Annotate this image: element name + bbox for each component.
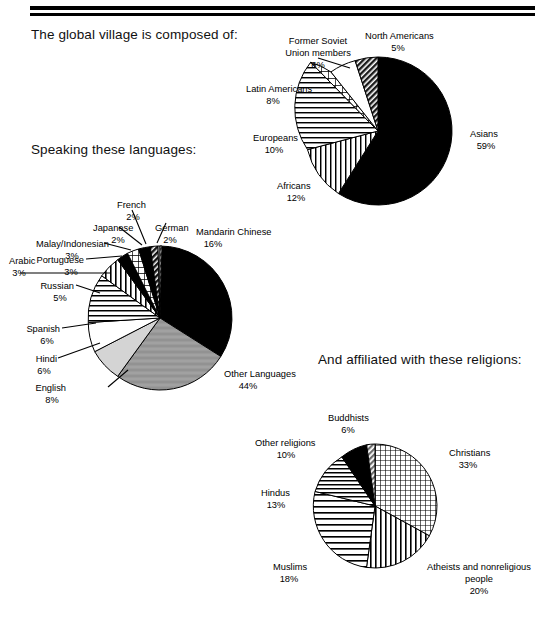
value-hindus: 13% <box>267 500 286 510</box>
value-hindi: 6% <box>37 366 50 376</box>
value-spanish: 6% <box>40 336 53 346</box>
value-christians: 33% <box>459 460 478 470</box>
value-former-soviet: 6% <box>311 60 324 70</box>
value-french: 2% <box>126 212 139 222</box>
label-other-religions: Other religions <box>255 438 316 448</box>
label-buddhists: Buddhists <box>328 413 369 423</box>
value-muslims: 18% <box>280 574 299 584</box>
top-double-rule <box>30 6 535 16</box>
value-german: 2% <box>163 235 176 245</box>
label-latin-americans: Latin Americans <box>246 84 312 94</box>
label-hindi: Hindi <box>36 354 57 364</box>
label-europeans: Europeans <box>253 133 298 143</box>
value-portuguese: 3% <box>64 267 77 277</box>
value-other-religions: 10% <box>277 450 296 460</box>
value-buddhists: 6% <box>341 425 354 435</box>
heading-languages: Speaking these languages: <box>31 142 196 157</box>
value-mandarin-chinese: 16% <box>204 239 223 249</box>
label-spanish: Spanish <box>26 324 60 334</box>
label-other-languages: Other Languages <box>224 369 296 379</box>
label-japanese: Japanese <box>93 223 133 233</box>
label-english: English <box>36 383 67 393</box>
heading-religions: And affiliated with these religions: <box>318 352 522 367</box>
label-north-americans: North Americans <box>365 31 434 41</box>
leader-line-portuguese <box>86 256 122 259</box>
label-former-soviet-line1: Former Soviet <box>289 36 348 46</box>
label-arabic: Arabic <box>9 256 36 266</box>
value-russian: 5% <box>53 293 66 303</box>
value-atheists: 20% <box>470 586 489 596</box>
pie-chart-languages: Mandarin Chinese 16% Other Languages 44%… <box>0 165 330 415</box>
value-north-americans: 5% <box>391 43 404 53</box>
label-french: French <box>117 200 146 210</box>
label-russian: Russian <box>40 281 74 291</box>
value-latin-americans: 8% <box>266 96 279 106</box>
label-german: German <box>155 223 189 233</box>
poster-page: The global village is composed of: Speak… <box>0 0 543 619</box>
label-former-soviet-line2: Union members <box>285 48 351 58</box>
label-malay-indonesian: Malay/Indonesian <box>36 239 109 249</box>
label-asians: Asians <box>470 129 498 139</box>
label-atheists-line1: Atheists and nonreligious <box>427 562 531 572</box>
label-christians: Christians <box>449 448 491 458</box>
label-muslims: Muslims <box>273 562 307 572</box>
value-asians: 59% <box>477 141 496 151</box>
rule-thin-line <box>30 13 535 16</box>
label-atheists-line2: people <box>465 574 493 584</box>
value-japanese: 2% <box>111 235 124 245</box>
label-hindus: Hindus <box>261 488 290 498</box>
value-europeans: 10% <box>265 145 284 155</box>
label-mandarin-chinese: Mandarin Chinese <box>196 227 271 237</box>
value-english: 8% <box>45 395 58 405</box>
heading-global-village: The global village is composed of: <box>31 27 238 42</box>
pie-chart-religions: Buddhists 6% Other religions 10% Hindus … <box>255 380 543 619</box>
value-malay-indonesian: 3% <box>65 251 78 261</box>
value-arabic: 3% <box>12 268 25 278</box>
